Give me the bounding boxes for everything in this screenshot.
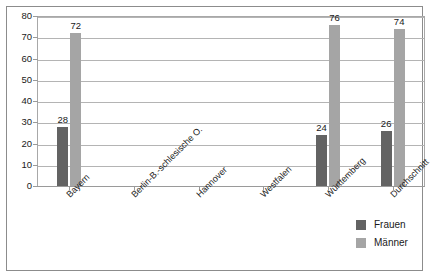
y-axis-tick-label: 30 bbox=[6, 118, 32, 128]
y-axis-tick-mark bbox=[33, 144, 38, 145]
gridline bbox=[38, 102, 424, 103]
gridline bbox=[38, 60, 424, 61]
bar-value-label: 72 bbox=[62, 21, 89, 31]
y-axis-tick-mark bbox=[33, 165, 38, 166]
y-axis-tick-label: 10 bbox=[6, 160, 32, 170]
gridline bbox=[38, 81, 424, 82]
bar bbox=[381, 131, 392, 186]
gridline bbox=[38, 17, 424, 18]
bar bbox=[394, 29, 405, 186]
y-axis-tick-label: 20 bbox=[6, 139, 32, 149]
gridline bbox=[38, 123, 424, 124]
chart-legend: FrauenMänner bbox=[356, 219, 408, 255]
legend-label: Frauen bbox=[374, 220, 406, 230]
y-axis-tick-mark bbox=[33, 186, 38, 187]
legend-swatch bbox=[356, 238, 366, 248]
y-axis-tick-label: 70 bbox=[6, 33, 32, 43]
bar bbox=[316, 135, 327, 186]
gridline bbox=[38, 166, 424, 167]
y-axis-tick-mark bbox=[33, 122, 38, 123]
legend-item: Männer bbox=[356, 237, 408, 248]
y-axis-tick-mark bbox=[33, 16, 38, 17]
bar-value-label: 74 bbox=[386, 17, 413, 27]
bar bbox=[329, 25, 340, 187]
y-axis-tick-mark bbox=[33, 59, 38, 60]
legend-label: Männer bbox=[374, 238, 408, 248]
chart-figure: 01020304050607080 287224762674 BayernBer… bbox=[0, 0, 431, 279]
y-axis-tick-label: 80 bbox=[6, 11, 32, 21]
gridline bbox=[38, 38, 424, 39]
y-axis-tick-mark bbox=[33, 101, 38, 102]
y-axis-tick-label: 40 bbox=[6, 96, 32, 106]
bar bbox=[70, 33, 81, 186]
y-axis-tick-labels: 01020304050607080 bbox=[0, 16, 32, 186]
bar bbox=[57, 127, 68, 187]
y-axis-tick-mark bbox=[33, 80, 38, 81]
legend-swatch bbox=[356, 220, 366, 230]
legend-item: Frauen bbox=[356, 219, 408, 230]
y-axis-tick-mark bbox=[33, 37, 38, 38]
y-axis-tick-label: 50 bbox=[6, 75, 32, 85]
y-axis-tick-label: 60 bbox=[6, 54, 32, 64]
gridline bbox=[38, 145, 424, 146]
y-axis-tick-label: 0 bbox=[6, 181, 32, 191]
bar-value-label: 76 bbox=[321, 13, 348, 23]
plot-area bbox=[37, 16, 425, 186]
x-axis-baseline bbox=[37, 186, 425, 187]
